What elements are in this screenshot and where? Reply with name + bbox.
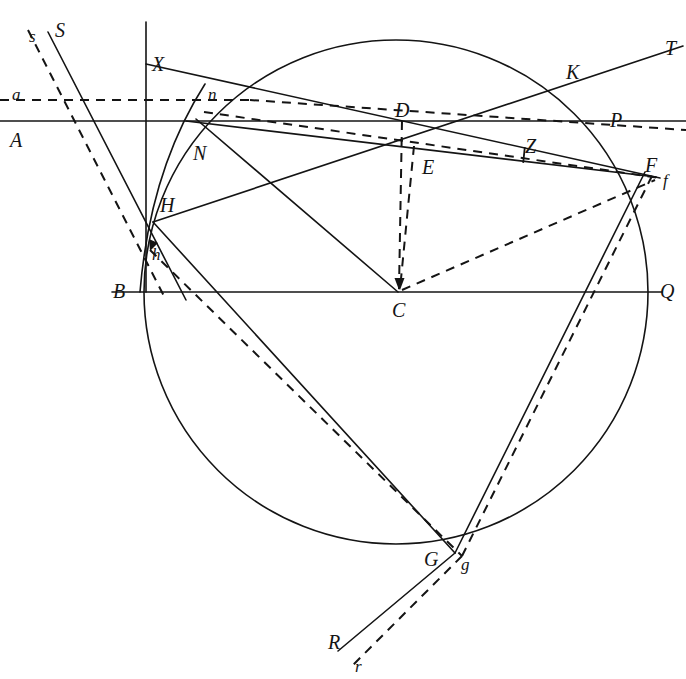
point-label-D: D [395,100,409,120]
point-label-X: X [152,54,164,74]
line-H-to-G [153,222,455,553]
figure-canvas [0,0,686,679]
point-label-K: K [566,62,579,82]
point-label-T: T [665,38,676,58]
point-label-n: n [208,86,217,103]
point-label-C: C [392,300,405,320]
line-N-to-C [196,119,398,292]
point-label-h: h [152,246,161,263]
point-label-B: B [113,281,125,301]
line-E-to-C [400,146,414,289]
point-label-g: g [461,556,470,573]
line-g-to-f [462,176,652,556]
point-label-P: P [610,110,622,130]
line-C-to-f [402,180,655,290]
point-label-Q: Q [660,281,674,301]
solid-lines-group [0,22,686,651]
point-label-Z: Z [525,136,536,156]
arc-N-through-B [140,84,205,292]
point-label-r: r [355,658,362,675]
line-H-to-T [153,46,683,222]
line-G-to-F [455,172,645,553]
line-h-to-g [150,250,462,556]
point-label-S: S [55,20,65,40]
point-label-a: a [12,86,21,103]
dashed-lines-group [0,30,686,666]
point-label-H: H [160,195,174,215]
geometry-figure: SsaAXnNHhBDECZKTPFfQGgRr [0,0,686,679]
line-N-to-F [186,121,656,177]
point-label-N: N [193,143,206,163]
point-label-s: s [29,28,36,45]
point-label-A: A [10,130,22,150]
point-label-F: F [645,155,657,175]
point-label-E: E [422,157,434,177]
line-g-to-r [352,556,462,666]
point-label-R: R [328,632,340,652]
point-label-f: f [663,172,668,189]
point-label-G: G [424,549,438,569]
